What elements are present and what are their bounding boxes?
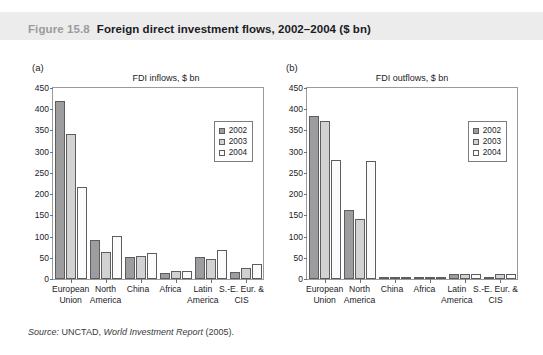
bar-a-3-2003 [171, 271, 181, 279]
x-axis-label-b-4: LatinAmerica [441, 284, 473, 305]
bar-group-b-3 [412, 88, 447, 279]
x-axis-tick-b-3 [430, 279, 431, 283]
source-org: UNCTAD, [62, 327, 101, 337]
bar-group-a-2 [123, 88, 158, 279]
x-label-line2: CIS [473, 295, 518, 306]
y-axis-tick-a-0: 0 [44, 274, 49, 284]
figure-title-text: Foreign direct investment flows, 2002–20… [97, 23, 371, 35]
bar-a-4-2002 [195, 257, 205, 279]
y-axis-tick-b-400: 400 [289, 104, 303, 114]
bar-b-5-2002 [484, 277, 494, 279]
bar-a-2-2003 [136, 256, 146, 279]
bar-group-b-5 [482, 88, 517, 279]
x-axis-label-a-5: S.-E. Eur. &CIS [219, 284, 264, 305]
legend-swatch-icon-2004 [219, 150, 225, 156]
bar-a-1-2002 [90, 240, 100, 279]
bar-a-5-2003 [241, 268, 251, 279]
x-label-line2: Union [306, 295, 343, 306]
y-axis-tick-b-300: 300 [289, 147, 303, 157]
y-axis-tick-b-250: 250 [289, 168, 303, 178]
y-axis-tick-a-200: 200 [35, 189, 49, 199]
legend-item-b-2004[interactable]: 2004 [473, 147, 501, 158]
bar-b-1-2002 [344, 210, 354, 279]
x-axis-tick-b-0 [325, 279, 326, 283]
legend-swatch-icon-2002 [473, 128, 479, 134]
y-axis-tick-b-0: 0 [298, 274, 303, 284]
x-axis-label-a-0: EuropeanUnion [52, 284, 89, 305]
y-axis-tick-a-100: 100 [35, 232, 49, 242]
bar-a-1-2004 [112, 236, 122, 279]
x-label-line2: America [343, 295, 375, 306]
x-label-line1: China [127, 284, 149, 294]
bar-b-0-2004 [331, 160, 341, 279]
x-label-line1: S.-E. Eur. & [219, 284, 264, 294]
x-axis-tick-b-4 [465, 279, 466, 283]
bar-group-a-3 [158, 88, 193, 279]
bar-b-0-2003 [320, 121, 330, 279]
bar-b-3-2004 [436, 277, 446, 279]
legend-item-a-2004[interactable]: 2004 [219, 147, 247, 158]
x-axis-labels-b: EuropeanUnionNorthAmericaChinaAfricaLati… [306, 284, 518, 305]
y-axis-tick-a-250: 250 [35, 168, 49, 178]
bar-b-2-2004 [401, 277, 411, 279]
x-axis-labels-a: EuropeanUnionNorthAmericaChinaAfricaLati… [52, 284, 264, 305]
x-axis-label-b-2: China [376, 284, 408, 305]
bar-group-b-2 [377, 88, 412, 279]
x-axis-tick-b-2 [395, 279, 396, 283]
bar-b-4-2004 [471, 274, 481, 279]
y-axis-tick-a-400: 400 [35, 104, 49, 114]
legend-swatch-icon-2004 [473, 150, 479, 156]
bar-a-4-2003 [206, 259, 216, 279]
legend-label-2002: 2002 [229, 125, 247, 136]
legend-label-2002: 2002 [483, 125, 501, 136]
bar-a-0-2002 [55, 101, 65, 279]
x-axis-label-b-5: S.-E. Eur. &CIS [473, 284, 518, 305]
panel-caption-b: FDI outflows, $ bn [276, 73, 538, 83]
panel-letter-a: (a) [32, 62, 44, 73]
y-axis-tick-b-450: 450 [289, 83, 303, 93]
legend-item-a-2003[interactable]: 2003 [219, 136, 247, 147]
bar-group-a-4 [193, 88, 228, 279]
panel-caption-a: FDI inflows, $ bn [22, 73, 292, 83]
figure-number: Figure 15.8 [28, 23, 90, 35]
legend-label-2003: 2003 [229, 136, 247, 147]
bar-a-1-2003 [101, 252, 111, 279]
x-label-line2: America [187, 295, 219, 306]
source-publication: World Investment Report [103, 327, 203, 337]
x-label-line1: European [52, 284, 89, 294]
x-axis-tick-b-1 [360, 279, 361, 283]
x-label-line1: North [95, 284, 116, 294]
bar-group-b-1 [342, 88, 377, 279]
x-label-line1: North [349, 284, 370, 294]
x-label-line2: Union [52, 295, 89, 306]
bar-a-3-2002 [160, 273, 170, 279]
bar-a-0-2004 [77, 187, 87, 279]
legend-item-a-2002[interactable]: 2002 [219, 125, 247, 136]
y-axis-tick-a-50: 50 [40, 253, 49, 263]
legend-b: 200220032004 [468, 121, 507, 162]
x-axis-label-b-0: EuropeanUnion [306, 284, 343, 305]
legend-label-2004: 2004 [229, 147, 247, 158]
x-axis-tick-a-3 [176, 279, 177, 283]
y-axis-tick-a-350: 350 [35, 125, 49, 135]
x-label-line1: S.-E. Eur. & [473, 284, 518, 294]
legend-swatch-icon-2002 [219, 128, 225, 134]
bar-groups-a [53, 88, 263, 279]
x-axis-tick-a-5 [246, 279, 247, 283]
plot-area-b: 450400350300250200150100500 200220032004 [306, 87, 518, 280]
x-axis-tick-a-4 [211, 279, 212, 283]
legend-item-b-2003[interactable]: 2003 [473, 136, 501, 147]
bar-b-1-2003 [355, 219, 365, 279]
x-axis-label-b-1: NorthAmerica [343, 284, 375, 305]
bar-a-5-2004 [252, 264, 262, 279]
x-axis-tick-a-0 [71, 279, 72, 283]
y-axis-tick-b-150: 150 [289, 210, 303, 220]
x-axis-label-a-4: LatinAmerica [187, 284, 219, 305]
bar-b-2-2002 [379, 277, 389, 279]
legend-item-b-2002[interactable]: 2002 [473, 125, 501, 136]
x-axis-tick-a-2 [141, 279, 142, 283]
x-label-line1: Latin [194, 284, 213, 294]
bar-b-0-2002 [309, 116, 319, 279]
bar-a-2-2004 [147, 253, 157, 279]
x-label-line1: Africa [159, 284, 181, 294]
